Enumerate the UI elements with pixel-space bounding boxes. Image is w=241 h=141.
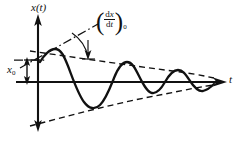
paren-open-glyph: ( [96,9,104,34]
lower-envelope-curve [30,85,214,126]
derivative-denominator-var: t [111,19,114,29]
derivative-numerator-var: x [110,9,114,19]
damped-vibration-figure: x(t) t x0 (dxdt)0 [0,0,241,141]
x-axis-label: t [229,74,232,85]
damped-response-curve [40,49,214,108]
derivative-denominator: dt [104,20,115,29]
derivative-subscript: 0 [123,23,127,31]
y-axis-label: x(t) [31,2,46,13]
envelope-group [30,51,214,126]
initial-slope-label: (dxdt)0 [96,9,127,34]
angle-arc-group [72,33,95,60]
tangent-line [20,24,98,68]
paren-close-glyph: ) [115,9,123,34]
initial-displacement-label: x0 [7,64,15,77]
x0-subscript: 0 [12,69,16,77]
derivative-fraction: dxdt [104,10,115,30]
